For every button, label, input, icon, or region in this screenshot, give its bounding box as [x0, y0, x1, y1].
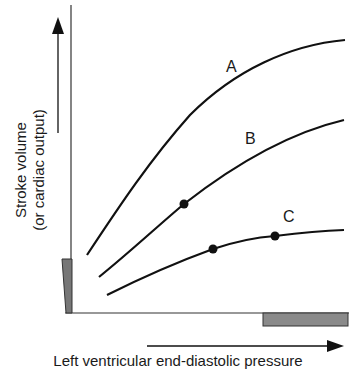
y-axis-label: Stroke volume (or cardiac output) — [12, 109, 48, 231]
y-shaded-bar — [62, 259, 72, 313]
curve-c-label: C — [283, 208, 295, 225]
y-axis-label-line2: (or cardiac output) — [30, 109, 48, 231]
curve-c-marker-1 — [209, 245, 218, 254]
x-axis-label: Left ventricular end-diastolic pressure — [0, 352, 356, 370]
y-direction-arrow — [52, 17, 64, 133]
x-direction-arrow — [147, 340, 344, 352]
curve-a-label: A — [226, 58, 237, 75]
y-axis-label-line1: Stroke volume — [12, 109, 30, 231]
x-shaded-bar — [263, 313, 348, 326]
curve-b-label: B — [245, 130, 256, 147]
curve-c-marker-2 — [271, 232, 280, 241]
curve-a — [87, 40, 345, 255]
curve-b-marker — [180, 200, 189, 209]
curve-b — [99, 120, 344, 277]
